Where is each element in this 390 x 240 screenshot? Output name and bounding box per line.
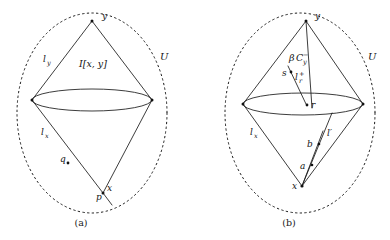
label-q-a: q: [60, 154, 66, 164]
label-lr-base-b: l: [295, 72, 298, 82]
label-ly-sub-a: y: [46, 59, 51, 67]
label-p-a: p: [96, 192, 102, 202]
vertex-dot-y-b: [305, 20, 308, 23]
label-lx-b: l x: [250, 127, 258, 140]
label-C-sup-b: −: [303, 51, 308, 59]
label-lx-base-a: l: [41, 127, 44, 137]
label-beta-b: β: [288, 52, 295, 63]
label-ly-a: l y: [43, 54, 51, 67]
ray-beta-cone-b: [306, 21, 312, 108]
label-y-b: y: [314, 11, 321, 21]
label-l-prime-b: l′: [327, 128, 332, 138]
point-dot-s-b: [290, 71, 293, 74]
label-boundary-u-a: U: [160, 51, 169, 62]
edge-upper-right-b: [306, 21, 363, 104]
label-r-b: r: [311, 100, 316, 110]
label-lr-sup-b: +: [299, 70, 304, 78]
label-ly-base-a: l: [43, 54, 46, 64]
label-s-b: s: [282, 68, 287, 78]
edge-lx-b: [243, 104, 302, 186]
label-lr-sub-b: r: [299, 77, 303, 85]
point-dot-a-b: [311, 164, 314, 167]
label-x-b: x: [292, 181, 297, 191]
label-lr-plus-b: l r +: [295, 70, 304, 86]
edge-lx-a: [32, 100, 103, 193]
label-b-b: b: [307, 139, 313, 149]
label-lx-a: l x: [41, 127, 49, 140]
rim-dot-left-a: [31, 99, 34, 102]
panel-b-group: y x s r a b β C y − l r + l x: [225, 11, 377, 228]
figure-container: y x p q l y l x I[x, y] U (a): [0, 0, 390, 240]
edge-lower-right-a: [103, 100, 152, 193]
vertex-dot-x-b: [300, 184, 303, 187]
label-lx-base-b: l: [250, 127, 253, 137]
rim-dot-right-a: [151, 99, 154, 102]
vertex-dot-x-a: [102, 192, 105, 195]
label-lx-sub-b: x: [254, 132, 258, 140]
point-dot-q-a: [67, 162, 70, 165]
rim-dot-left-b: [242, 103, 245, 106]
caption-panel-b: (b): [282, 217, 296, 228]
label-x-a: x: [107, 183, 112, 193]
vertex-dot-y-a: [91, 20, 94, 23]
label-y-a: y: [101, 11, 108, 21]
point-dot-b-b: [318, 143, 321, 146]
label-boundary-u-b: U: [368, 51, 377, 62]
rim-dot-right-b: [362, 103, 365, 106]
panel-a-group: y x p q l y l x I[x, y] U (a): [17, 11, 169, 228]
waist-ellipse-a: [32, 89, 152, 111]
edge-lx-overshoot-a: [103, 193, 112, 205]
point-dot-r-b: [306, 104, 309, 107]
label-a-b: a: [300, 161, 305, 171]
label-lx-sub-a: x: [45, 132, 49, 140]
boundary-ellipse-u-a: [17, 13, 167, 213]
label-C-sub-b: y: [302, 58, 307, 66]
waist-ellipse-b: [243, 93, 363, 115]
label-beta-cone-b: β C y −: [288, 51, 308, 67]
caption-panel-a: (a): [74, 217, 87, 228]
diagram-canvas: y x p q l y l x I[x, y] U (a): [0, 0, 390, 240]
label-interior-region-a: I[x, y]: [78, 58, 107, 69]
